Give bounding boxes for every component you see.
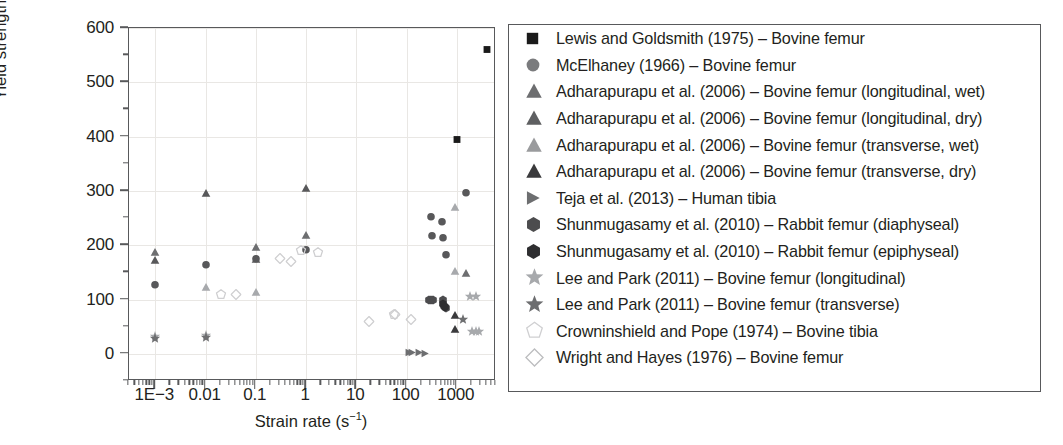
legend-item[interactable]: Crowninshield and Pope (1974) – Bovine t… (509, 318, 1040, 345)
x-tick-label: 1E−3 (135, 386, 174, 404)
legend-item[interactable]: Shunmugasamy et al. (2010) – Rabbit femu… (509, 211, 1040, 238)
x-tick-minor (403, 380, 404, 385)
gridline-vertical (256, 28, 257, 379)
x-tick-minor (293, 380, 294, 385)
x-tick-minor (479, 380, 480, 385)
data-point-diamond-open (405, 311, 416, 329)
y-tick-major (120, 352, 128, 354)
x-axis-title-paren: ) (362, 412, 368, 430)
legend-item[interactable]: Adharapurapu et al. (2006) – Bovine femu… (509, 131, 1040, 158)
y-tick-major (120, 243, 128, 245)
data-point-circle (426, 208, 436, 226)
x-tick-minor (142, 380, 143, 385)
chart-legend: Lewis and Goldsmith (1975) – Bovine femu… (508, 24, 1041, 392)
data-point-star (200, 329, 211, 347)
x-tick-minor (485, 380, 486, 385)
legend-item[interactable]: Wright and Hayes (1976) – Bovine femur (509, 344, 1040, 371)
legend-item-label: Adharapurapu et al. (2006) – Bovine femu… (556, 109, 982, 127)
x-tick-minor (370, 380, 371, 385)
data-point-circle (461, 184, 471, 202)
x-tick-minor (199, 380, 200, 385)
data-point-pentagon-open (215, 286, 226, 304)
x-tick-minor (169, 380, 170, 385)
data-point-circle (151, 276, 161, 294)
data-point-pentagon-open (296, 242, 307, 260)
x-tick-minor (340, 380, 341, 385)
gridline-horizontal (129, 354, 494, 355)
x-tick-minor (420, 380, 421, 385)
x-tick-label: 0.1 (243, 386, 266, 404)
data-point-hexagon (428, 291, 438, 309)
x-tick-minor (302, 380, 303, 385)
data-point-diamond-open (364, 313, 375, 331)
legend-marker-triangle-right-icon (523, 187, 549, 209)
legend-item-label: Lee and Park (2011) – Bovine femur (long… (556, 269, 906, 287)
x-tick-minor (269, 380, 270, 385)
y-tick-major (120, 26, 128, 28)
legend-item-label: Shunmugasamy et al. (2010) – Rabbit femu… (556, 242, 959, 260)
y-tick-label: 500 (86, 73, 114, 90)
x-tick-minor (228, 380, 229, 385)
data-point-hexagon (440, 298, 450, 316)
x-tick-minor (234, 380, 235, 385)
x-tick-minor (284, 380, 285, 385)
legend-item-label: Adharapurapu et al. (2006) – Bovine femu… (556, 82, 985, 100)
legend-marker-triangle-icon (523, 134, 549, 156)
x-tick-minor (239, 380, 240, 385)
data-point-circle (201, 256, 211, 274)
legend-item[interactable]: Adharapurapu et al. (2006) – Bovine femu… (509, 78, 1040, 105)
legend-item[interactable]: Lewis and Goldsmith (1975) – Bovine femu… (509, 25, 1040, 52)
y-tick-label: 300 (86, 181, 114, 198)
x-tick-minor (490, 380, 491, 385)
data-point-star (474, 323, 485, 341)
legend-item[interactable]: Adharapurapu et al. (2006) – Bovine femu… (509, 158, 1040, 185)
data-point-triangle (450, 262, 460, 280)
legend-item[interactable]: Teja et al. (2013) – Human tibia (509, 185, 1040, 212)
y-tick-major (120, 81, 128, 83)
data-point-triangle (201, 278, 211, 296)
x-tick-minor (300, 380, 301, 385)
legend-marker-diamond-open-icon (523, 346, 549, 368)
y-tick-label: 200 (86, 236, 114, 253)
legend-marker-star-icon (523, 267, 549, 289)
data-point-triangle-right (420, 344, 429, 362)
y-tick-label: 0 (105, 344, 114, 361)
data-point-triangle (301, 179, 311, 197)
x-tick-minor (347, 380, 348, 385)
data-point-triangle (251, 283, 261, 301)
x-tick-minor (243, 380, 244, 385)
legend-item-label: Adharapurapu et al. (2006) – Bovine femu… (556, 136, 979, 154)
x-tick-minor (196, 380, 197, 385)
x-tick-minor (193, 380, 194, 385)
x-tick-minor (184, 380, 185, 385)
x-tick-minor (189, 380, 190, 385)
legend-item[interactable]: Adharapurapu et al. (2006) – Bovine femu… (509, 105, 1040, 132)
legend-item[interactable]: Shunmugasamy et al. (2010) – Rabbit femu… (509, 238, 1040, 265)
gridline-vertical (155, 28, 156, 379)
x-axis-title-text: Strain rate (s (255, 412, 349, 430)
legend-item[interactable]: Lee and Park (2011) – Bovine femur (long… (509, 264, 1040, 291)
gridline-vertical (356, 28, 357, 379)
x-tick-minor (440, 380, 441, 385)
data-point-circle (438, 228, 448, 246)
legend-item[interactable]: Lee and Park (2011) – Bovine femur (tran… (509, 291, 1040, 318)
x-tick-minor (494, 380, 495, 385)
x-tick-minor (149, 380, 150, 385)
data-point-diamond-open (230, 286, 241, 304)
x-tick-minor (400, 380, 401, 385)
y-tick-major (120, 189, 128, 191)
x-tick-minor (397, 380, 398, 385)
x-tick-minor (278, 380, 279, 385)
x-tick-minor (151, 380, 152, 385)
gridline-horizontal (129, 28, 494, 29)
x-tick-minor (470, 380, 471, 385)
data-point-triangle (201, 184, 211, 202)
x-tick-minor (138, 380, 139, 385)
legend-item[interactable]: McElhaney (1966) – Bovine femur (509, 52, 1040, 79)
data-point-diamond-open (390, 306, 401, 324)
data-point-star (150, 330, 161, 348)
legend-item-label: Crowninshield and Pope (1974) – Bovine t… (556, 322, 878, 340)
x-tick-minor (447, 380, 448, 385)
legend-item-label: Lewis and Goldsmith (1975) – Bovine femu… (556, 29, 865, 47)
x-tick-minor (246, 380, 247, 385)
